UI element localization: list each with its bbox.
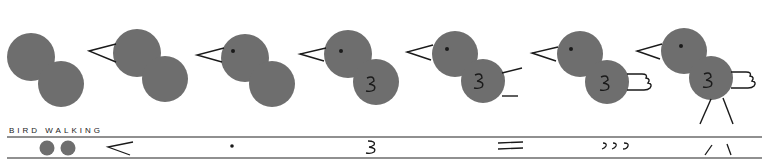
beak (89, 44, 116, 62)
bird-walking-illustration: BIRD WALKING (0, 0, 762, 167)
illustration-title: BIRD WALKING (9, 126, 103, 135)
body-thumbprint (38, 61, 84, 107)
steps-drawing (0, 0, 762, 167)
